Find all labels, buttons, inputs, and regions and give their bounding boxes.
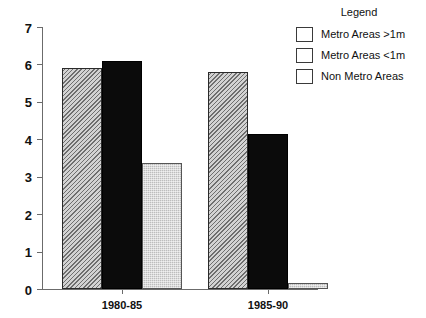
x-axis-tick (122, 289, 123, 294)
bar (102, 61, 142, 289)
y-axis-tick-label: 4 (25, 133, 32, 146)
bar (142, 163, 182, 290)
y-axis-tick: 5 (37, 102, 42, 103)
y-axis-tick-label: 3 (25, 171, 32, 184)
y-axis-line (42, 27, 43, 289)
y-axis-tick: 3 (37, 177, 42, 178)
y-axis-tick: 1 (37, 252, 42, 253)
diagonal-hatch-swatch-icon (296, 27, 313, 42)
bar (208, 72, 248, 289)
x-axis-line (42, 289, 318, 290)
y-axis-tick-label: 7 (25, 21, 32, 34)
legend-item-label: Metro Areas <1m (321, 49, 405, 61)
y-axis-tick: 4 (37, 139, 42, 140)
x-axis-tick (268, 289, 269, 294)
legend: Legend Metro Areas >1m Metro Areas <1m N… (296, 6, 426, 87)
y-axis-tick-label: 0 (25, 283, 32, 296)
y-axis-tick: 2 (37, 214, 42, 215)
legend-item-label: Non Metro Areas (321, 70, 404, 82)
bar (248, 134, 288, 289)
solid-black-swatch-icon (296, 48, 313, 63)
plot-area: 01234567 1980-851985-90 (42, 27, 318, 289)
bar (62, 68, 102, 289)
light-gray-swatch-icon (296, 69, 313, 84)
x-axis-tick-label: 1980-85 (102, 299, 142, 311)
legend-title: Legend (300, 6, 418, 18)
bar-chart: 01234567 1980-851985-90 Legend Metro Are… (0, 0, 426, 318)
y-axis-tick: 6 (37, 64, 42, 65)
y-axis-tick-label: 2 (25, 208, 32, 221)
x-axis-tick-label: 1985-90 (248, 299, 288, 311)
y-axis-tick-label: 5 (25, 96, 32, 109)
y-axis-tick-label: 1 (25, 246, 32, 259)
y-axis-tick: 0 (37, 289, 42, 290)
y-axis-tick-label: 6 (25, 58, 32, 71)
legend-item: Non Metro Areas (296, 66, 426, 86)
bar (288, 283, 328, 289)
y-axis-tick: 7 (37, 27, 42, 28)
legend-item-label: Metro Areas >1m (321, 28, 405, 40)
legend-item: Metro Areas <1m (296, 45, 426, 65)
legend-item: Metro Areas >1m (296, 24, 426, 44)
